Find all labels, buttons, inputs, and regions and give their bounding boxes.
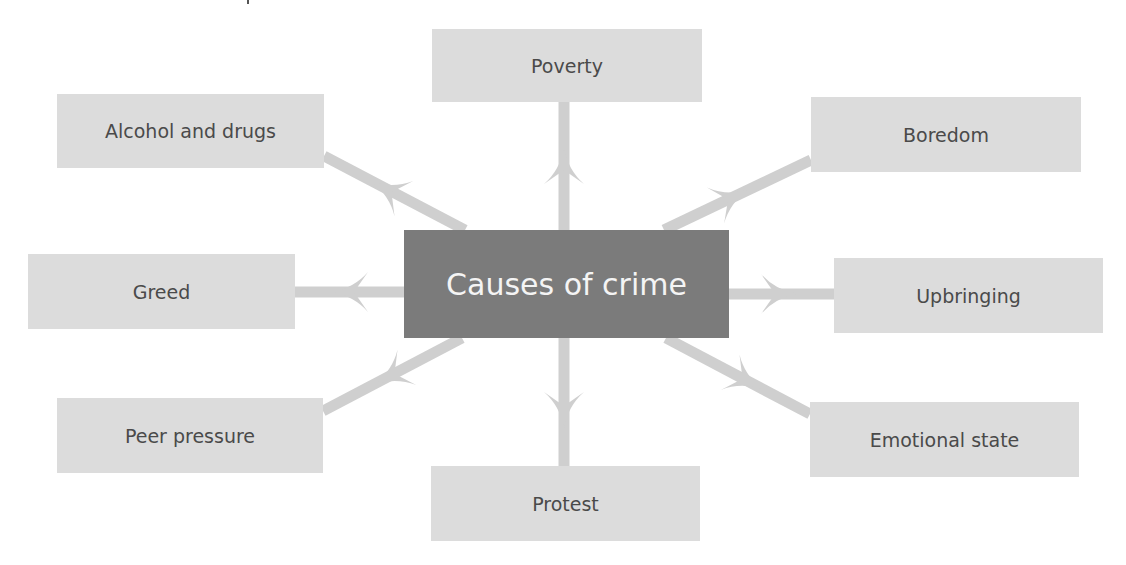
node-upbringing: Upbringing — [834, 258, 1103, 333]
node-label: Greed — [133, 281, 191, 303]
node-label: Emotional state — [870, 429, 1020, 451]
node-emotional-state: Emotional state — [810, 402, 1079, 477]
node-label: Peer pressure — [125, 425, 255, 447]
arrow-to-protest — [544, 338, 584, 466]
central-node-causes-of-crime: Causes of crime — [404, 230, 729, 338]
node-label: Upbringing — [916, 285, 1021, 307]
arrow-to-alcohol-and-drugs — [324, 156, 465, 230]
node-label: Protest — [532, 493, 599, 515]
arrow-to-peer-pressure — [323, 338, 462, 411]
node-alcohol-and-drugs: Alcohol and drugs — [57, 94, 324, 168]
stray-mark — [247, 0, 249, 4]
node-boredom: Boredom — [811, 97, 1081, 172]
central-node-label: Causes of crime — [446, 267, 687, 302]
node-peer-pressure: Peer pressure — [57, 398, 323, 473]
arrow-to-boredom — [664, 160, 811, 230]
node-label: Poverty — [531, 55, 603, 77]
node-label: Boredom — [903, 124, 989, 146]
arrow-to-greed — [295, 272, 404, 312]
node-protest: Protest — [431, 466, 700, 541]
node-label: Alcohol and drugs — [105, 120, 276, 142]
node-poverty: Poverty — [432, 29, 702, 102]
arrow-to-poverty — [544, 102, 584, 230]
arrow-to-emotional-state — [666, 338, 810, 414]
arrow-to-upbringing — [729, 274, 834, 314]
node-greed: Greed — [28, 254, 295, 329]
